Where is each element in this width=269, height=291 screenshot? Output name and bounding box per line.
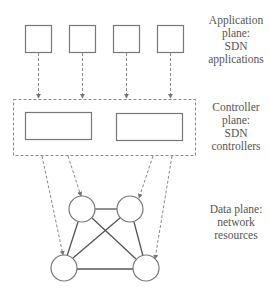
label-line: applications [196, 53, 269, 66]
link-top-left-bottom-left [67, 222, 78, 256]
label-line: Application [196, 14, 269, 27]
label-line: SDN [196, 127, 269, 140]
label-line: Controller [196, 101, 269, 114]
node-top-left [69, 196, 95, 222]
app-node-3 [114, 26, 140, 53]
label-line: Data plane: [196, 203, 269, 216]
controller-to-node-top-right-link [139, 156, 153, 198]
node-top-right [117, 196, 143, 222]
controller-node-1 [26, 113, 92, 140]
controller-node-2 [117, 114, 183, 141]
app-node-1 [26, 26, 52, 53]
link-top-right-bottom-right [134, 222, 143, 256]
application-plane-label: Application plane: SDN applications [196, 14, 269, 66]
label-line: controllers [196, 140, 269, 153]
data-plane-label: Data plane: network resources [196, 203, 269, 242]
controller-plane-label: Controller plane: SDN controllers [196, 101, 269, 153]
controller-to-node-top-left-link [68, 156, 81, 196]
app-node-2 [70, 26, 96, 53]
label-line: SDN [196, 40, 269, 53]
controller-to-node-bottom-right-link [155, 156, 172, 259]
label-line: resources [196, 229, 269, 242]
label-line: plane: [196, 27, 269, 40]
label-line: network [196, 216, 269, 229]
controller-to-node-bottom-left-link [42, 156, 63, 255]
label-line: plane: [196, 114, 269, 127]
link-top-left-bottom-right [92, 218, 136, 259]
node-bottom-right [133, 255, 159, 281]
node-bottom-left [51, 255, 77, 281]
app-node-4 [158, 26, 184, 53]
